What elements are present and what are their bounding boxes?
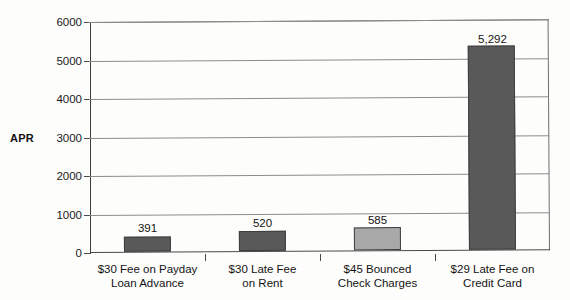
x-tick-mark [320,254,321,261]
plot-inner [89,19,550,253]
x-axis-category-label: $30 Fee on PaydayLoan Advance [98,263,198,290]
category-label-line: Loan Advance [98,277,198,291]
bar-value-label: 5,292 [478,33,507,45]
gridline [89,19,549,23]
plot-area [90,22,550,253]
category-label-line: $30 Late Fee [229,263,297,277]
x-tick-mark [205,254,206,261]
x-tick-mark [435,254,436,261]
x-axis-category-label: $30 Late Feeon Rent [229,263,297,290]
x-axis-category-label: $29 Late Fee onCredit Card [451,263,535,290]
category-label-line: on Rent [229,277,297,291]
bar [354,228,401,251]
category-label-line: Check Charges [338,277,417,291]
bar [239,231,286,251]
y-tick-label: 0 [46,247,82,259]
y-tick-label: 4000 [46,93,82,105]
y-axis-tick-labels: 6000 5000 4000 3000 2000 1000 0 [44,0,82,300]
bar-value-label: 520 [253,217,272,229]
bar [124,236,171,251]
category-label-line: $30 Fee on Payday [98,263,198,277]
category-label-line: $29 Late Fee on [451,263,535,277]
y-tick-label: 3000 [46,132,82,144]
y-tick-label: 5000 [46,55,82,67]
x-axis-category-label: $45 BouncedCheck Charges [338,263,417,290]
category-label-line: Credit Card [451,277,535,291]
y-tick-label: 2000 [46,170,82,182]
bar-value-label: 585 [368,214,387,226]
gridlines [89,19,549,22]
category-label-line: $45 Bounced [338,263,417,277]
bar-value-label: 391 [138,222,157,234]
y-tick-label: 1000 [46,209,82,221]
y-tick-label: 6000 [46,16,82,28]
bar [468,46,516,250]
bar-chart: APR 6000 5000 4000 3000 2000 1000 0 391$… [0,0,570,300]
